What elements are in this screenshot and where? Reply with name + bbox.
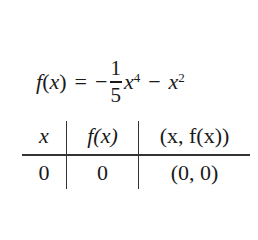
term1-variable: x <box>124 69 134 95</box>
equals-sign: = <box>75 69 87 95</box>
term1-exponent: 4 <box>134 70 141 86</box>
fraction: 1 5 <box>108 58 123 105</box>
minus-sign: − <box>95 69 107 95</box>
function-variable: x <box>49 69 59 95</box>
table-row: 0 0 (0, 0) <box>22 158 250 188</box>
value-table: x f(x) (x, f(x)) 0 0 (0, 0) <box>22 121 250 151</box>
fraction-denominator: 5 <box>108 85 123 106</box>
minus-sign-2: − <box>148 69 160 95</box>
cell-x: 0 <box>22 158 66 188</box>
function-equation: f(x) = − 1 5 x4 − x2 <box>36 56 185 108</box>
fraction-numerator: 1 <box>108 58 123 79</box>
header-fx: f(x) <box>67 121 138 151</box>
term2-variable: x <box>169 69 179 95</box>
cell-fx: 0 <box>67 158 138 188</box>
header-x: x <box>22 121 66 151</box>
column-divider-1 <box>66 121 67 189</box>
column-divider-2 <box>138 121 139 189</box>
header-point: (x, f(x)) <box>139 121 250 151</box>
paren-close: ) <box>59 69 66 95</box>
term2-exponent: 2 <box>178 70 185 86</box>
table-header-row: x f(x) (x, f(x)) <box>22 121 250 151</box>
header-divider <box>22 154 250 156</box>
cell-point: (0, 0) <box>139 158 250 188</box>
